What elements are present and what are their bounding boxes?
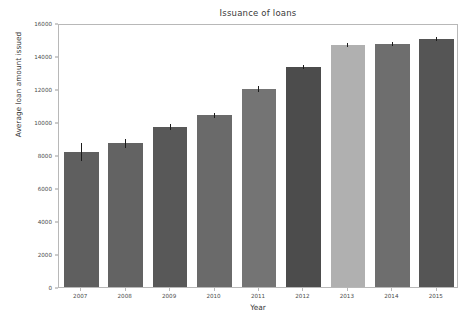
bars-layer (59, 25, 457, 287)
bar-group (286, 23, 321, 287)
plot-area (58, 24, 458, 288)
bar (419, 39, 454, 287)
x-axis-label: Year (58, 303, 458, 312)
chart-title: Issuance of loans (58, 8, 458, 18)
y-axis-tick-label: 4000 (38, 219, 52, 225)
x-axis-tick-label: 2014 (384, 293, 398, 299)
x-axis-tick-label: 2013 (340, 293, 354, 299)
x-axis-tick-label: 2011 (251, 293, 265, 299)
error-bar (347, 43, 348, 47)
y-axis-label: Average loan amount issued (14, 0, 23, 185)
bar (108, 143, 143, 287)
y-axis-tick-label: 8000 (38, 153, 52, 159)
bar (242, 89, 277, 287)
bar-group (242, 23, 277, 287)
bar (375, 44, 410, 287)
y-axis-tick-label: 10000 (34, 120, 52, 126)
bar (331, 45, 366, 287)
bar (153, 127, 188, 287)
x-axis-tick-mark (347, 288, 348, 291)
error-bar (81, 143, 82, 161)
error-bar (214, 113, 215, 118)
x-axis-tick-mark (214, 288, 215, 291)
bar (64, 152, 99, 287)
bar-group (375, 23, 410, 287)
x-axis-tick-label: 2009 (162, 293, 176, 299)
y-axis-tick-label: 16000 (34, 21, 52, 27)
bar-group (331, 23, 366, 287)
bar (197, 115, 232, 287)
y-axis-tick-label: 14000 (34, 54, 52, 60)
bar-group (108, 23, 143, 287)
error-bar (258, 86, 259, 92)
error-bar (170, 124, 171, 131)
y-axis-tick-label: 2000 (38, 252, 52, 258)
x-axis-tick-mark (302, 288, 303, 291)
x-axis-tick-label: 2008 (118, 293, 132, 299)
y-axis-tick-label: 12000 (34, 87, 52, 93)
x-axis-tick-label: 2015 (429, 293, 443, 299)
x-axis-tick-mark (436, 288, 437, 291)
bar-group (197, 23, 232, 287)
x-axis-tick-mark (391, 288, 392, 291)
bar (286, 67, 321, 287)
bar-group (153, 23, 188, 287)
chart-figure: Issuance of loans 0200040006000800010000… (0, 0, 474, 328)
y-axis-tick-label: 0 (48, 285, 52, 291)
bar-group (419, 23, 454, 287)
x-axis-tick-mark (258, 288, 259, 291)
x-axis-tick-label: 2010 (206, 293, 220, 299)
x-axis-tick-label: 2007 (73, 293, 87, 299)
y-axis-tick-label: 6000 (38, 186, 52, 192)
error-bar (392, 42, 393, 46)
error-bar (303, 65, 304, 69)
x-axis-tick-mark (125, 288, 126, 291)
y-axis: 0200040006000800010000120001400016000 (0, 24, 58, 288)
error-bar (436, 37, 437, 41)
x-axis-tick-mark (169, 288, 170, 291)
x-axis-tick-mark (80, 288, 81, 291)
error-bar (125, 139, 126, 147)
bar-group (64, 23, 99, 287)
x-axis-tick-label: 2012 (295, 293, 309, 299)
